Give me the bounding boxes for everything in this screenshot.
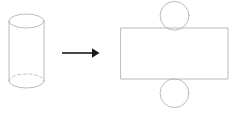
cylinder-shape <box>9 14 44 88</box>
arrow-head-icon <box>92 48 100 58</box>
cylinder-net-shape <box>121 1 228 107</box>
cylinder-hidden-bottom-arc <box>9 74 44 81</box>
figure-canvas <box>0 0 235 113</box>
cylinder-top-ellipse <box>9 14 44 28</box>
transformation-arrow <box>62 48 100 58</box>
net-top-circle <box>160 1 189 30</box>
cylinder-front-bottom-arc <box>9 81 44 88</box>
net-lateral-rectangle <box>121 28 228 79</box>
net-bottom-circle <box>160 79 189 108</box>
cylinder-net-diagram <box>0 0 235 113</box>
